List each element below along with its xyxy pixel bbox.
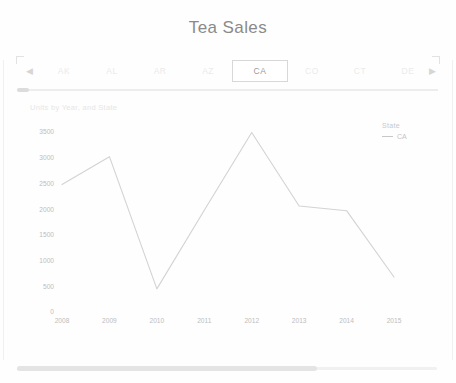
y-tick-1500: 1500: [39, 231, 54, 238]
chart-panel: Units by Year, and State State CA 350030…: [16, 100, 440, 348]
y-tick-500: 500: [43, 283, 54, 290]
page-scrollbar-thumb[interactable]: [17, 366, 317, 371]
line-chart-plot: 3500300025002000150010005000 20082009201…: [16, 118, 440, 348]
state-tab-ca[interactable]: CA: [232, 60, 288, 82]
state-tab-ct[interactable]: CT: [336, 60, 384, 82]
filter-prev-arrow-icon[interactable]: ◀: [23, 65, 35, 77]
page-left-edge-mark: [3, 60, 4, 360]
state-tab-co[interactable]: CO: [288, 60, 336, 82]
x-tick-2008: 2008: [55, 317, 70, 324]
filter-strip-scrollbar[interactable]: [17, 88, 438, 92]
page-bottom-scrollbar[interactable]: [17, 366, 437, 371]
page-right-edge-mark: [452, 60, 453, 360]
dashboard-page: Tea Sales ◀ ▶ AK AL AR AZ CA CO CT DE Un…: [0, 0, 456, 383]
x-tick-2011: 2011: [197, 317, 212, 324]
filter-scrollbar-thumb[interactable]: [17, 88, 29, 92]
y-axis-tick-labels: 3500300025002000150010005000: [39, 128, 54, 315]
state-tab-al[interactable]: AL: [88, 60, 136, 82]
y-tick-1000: 1000: [39, 257, 54, 264]
y-tick-0: 0: [50, 308, 54, 315]
x-tick-2014: 2014: [339, 317, 354, 324]
page-title-bar: Tea Sales: [0, 18, 456, 38]
state-tab-list: AK AL AR AZ CA CO CT DE: [40, 58, 432, 84]
state-tab-ar[interactable]: AR: [136, 60, 184, 82]
chart-svg: 3500300025002000150010005000 20082009201…: [16, 118, 440, 348]
series-line-CA: [62, 133, 394, 289]
x-tick-2010: 2010: [150, 317, 165, 324]
filter-scrollbar-track[interactable]: [17, 89, 438, 91]
x-tick-2015: 2015: [387, 317, 402, 324]
y-tick-3500: 3500: [39, 128, 54, 135]
x-axis-tick-labels: 20082009201020112012201320142015: [55, 317, 402, 324]
filter-corner-top-left: [16, 56, 24, 64]
x-tick-2013: 2013: [292, 317, 307, 324]
x-tick-2009: 2009: [102, 317, 117, 324]
y-tick-3000: 3000: [39, 154, 54, 161]
state-filter-strip: ◀ ▶ AK AL AR AZ CA CO CT DE: [16, 56, 440, 86]
state-tab-de[interactable]: DE: [384, 60, 432, 82]
page-title: Tea Sales: [189, 18, 267, 37]
x-tick-2012: 2012: [244, 317, 259, 324]
filter-corner-top-right: [432, 56, 440, 64]
y-tick-2500: 2500: [39, 180, 54, 187]
state-tab-az[interactable]: AZ: [184, 60, 232, 82]
state-tab-ak[interactable]: AK: [40, 60, 88, 82]
y-tick-2000: 2000: [39, 206, 54, 213]
chart-subtitle: Units by Year, and State: [30, 103, 117, 112]
series-lines: [62, 133, 394, 289]
